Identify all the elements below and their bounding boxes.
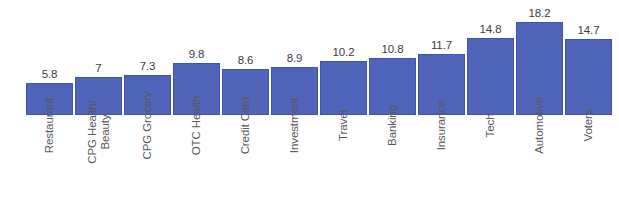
category-label-text: Travel: [337, 110, 350, 141]
category-label-text: CPG Health/ Beauty: [86, 100, 112, 163]
bar[interactable]: [565, 39, 612, 115]
category-label-text: Insurance: [435, 101, 448, 151]
category-label: Tech: [467, 119, 514, 203]
bar-group: 10.8Banking: [369, 0, 416, 203]
bar-column[interactable]: 14.8: [467, 22, 514, 115]
bar-group: 9.8OTC Health: [173, 0, 220, 203]
bar-chart-screenshot: 5.8Restaurant7CPG Health/ Beauty7.3CPG G…: [0, 0, 619, 203]
category-label: Banking: [369, 119, 416, 203]
bar-value-label: 5.8: [42, 67, 58, 81]
bar-column[interactable]: 14.7: [565, 23, 612, 115]
category-label-text: Banking: [386, 105, 399, 146]
category-label-text: Credit Card: [239, 97, 252, 155]
category-label: Insurance: [418, 119, 465, 203]
category-label-text: CPG Grocery: [141, 92, 154, 160]
bar-group: 14.8Tech: [467, 0, 514, 203]
bar-value-label: 10.2: [333, 45, 355, 59]
bar-value-label: 14.8: [480, 22, 502, 36]
category-label: Restaurant: [26, 119, 73, 203]
bar-value-label: 7: [95, 61, 101, 75]
bar-value-label: 18.2: [529, 6, 551, 20]
chart-plot-area: 5.8Restaurant7CPG Health/ Beauty7.3CPG G…: [0, 0, 619, 203]
bar-value-label: 8.6: [238, 53, 254, 67]
bar-value-label: 9.8: [189, 47, 205, 61]
bar-value-label: 8.9: [287, 51, 303, 65]
category-label: OTC Health: [173, 119, 220, 203]
category-label: CPG Grocery: [124, 119, 171, 203]
bar-column[interactable]: 10.2: [320, 45, 367, 115]
category-label-text: Voters: [582, 109, 595, 141]
category-label-text: Investment: [288, 98, 301, 153]
category-label: Automotive: [516, 119, 563, 203]
bar-value-label: 10.8: [382, 42, 404, 56]
bar-value-label: 11.7: [431, 38, 452, 52]
bar-group: 14.7Voters: [565, 0, 612, 203]
bar[interactable]: [320, 61, 367, 115]
bar-group: 8.9Investment: [271, 0, 318, 203]
bar-group: 7CPG Health/ Beauty: [75, 0, 122, 203]
bar-group: 8.6Credit Card: [222, 0, 269, 203]
bar-group: 10.2Travel: [320, 0, 367, 203]
category-label-text: OTC Health: [190, 96, 203, 156]
bar-column[interactable]: 10.8: [369, 42, 416, 115]
bar[interactable]: [467, 38, 514, 115]
category-label: Credit Card: [222, 119, 269, 203]
bar-value-label: 14.7: [578, 23, 600, 37]
category-label: Travel: [320, 119, 367, 203]
bar-group: 7.3CPG Grocery: [124, 0, 171, 203]
bar-group: 11.7Insurance: [418, 0, 465, 203]
bar-group: 18.2Automotive: [516, 0, 563, 203]
category-label-text: Tech: [484, 114, 497, 138]
category-label: CPG Health/ Beauty: [75, 119, 122, 203]
category-label: Voters: [565, 119, 612, 203]
category-label: Investment: [271, 119, 318, 203]
bar-value-label: 7.3: [140, 59, 156, 73]
category-label-text: Automotive: [533, 97, 546, 154]
bar-group: 5.8Restaurant: [26, 0, 73, 203]
category-label-text: Restaurant: [43, 98, 56, 153]
